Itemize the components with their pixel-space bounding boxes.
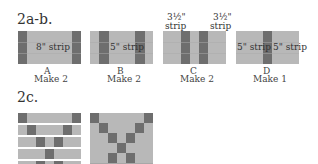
block-d: 5" strip 5" strip bbox=[236, 31, 299, 64]
block-a-strip-label: 8" strip bbox=[36, 42, 70, 52]
block-c bbox=[163, 31, 226, 64]
section-c-title: 2c. bbox=[17, 89, 38, 105]
row-2 bbox=[18, 125, 81, 135]
row-3 bbox=[18, 137, 81, 147]
block-d-strip-label-left: 5" strip bbox=[237, 42, 271, 52]
block-a: 8" strip bbox=[18, 31, 81, 64]
block-c-dark-right bbox=[199, 31, 208, 64]
block-d-make: Make 1 bbox=[253, 74, 287, 84]
block-c-label-right-strip: strip bbox=[210, 21, 231, 31]
row-1 bbox=[18, 113, 81, 123]
block-b-make: Make 2 bbox=[107, 74, 141, 84]
row-4 bbox=[18, 149, 81, 159]
joined-block bbox=[90, 113, 153, 164]
block-c-label-left-strip: strip bbox=[165, 21, 186, 31]
separated-rows bbox=[18, 113, 81, 164]
block-b-strip-label: 5" strip bbox=[110, 42, 144, 52]
block-c-dark-left bbox=[181, 31, 190, 64]
row-5 bbox=[18, 161, 81, 164]
block-a-dark-right bbox=[72, 31, 81, 64]
block-b: 5" strip bbox=[90, 31, 153, 64]
block-a-dark-left bbox=[18, 31, 27, 64]
section-ab-title: 2a-b. bbox=[17, 11, 52, 27]
block-a-make: Make 2 bbox=[34, 74, 68, 84]
block-d-strip-label-right: 5" strip bbox=[273, 42, 307, 52]
block-c-make: Make 2 bbox=[180, 74, 214, 84]
block-b-dark-left bbox=[99, 31, 109, 64]
